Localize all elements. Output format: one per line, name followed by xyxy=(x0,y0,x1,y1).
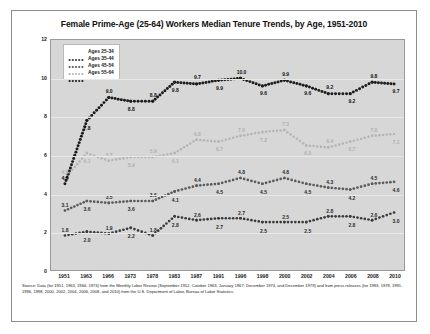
data-label: 5.9 xyxy=(150,148,157,154)
data-label: 2.7 xyxy=(216,224,223,230)
data-label: 4.3 xyxy=(326,179,333,185)
data-label: 9.0 xyxy=(106,88,113,94)
legend-swatch-icon xyxy=(68,63,84,69)
y-tick-10: 10 xyxy=(41,75,50,81)
gridline xyxy=(51,117,404,118)
legend: Ages 25-34Ages 35-44Ages 45-54Ages 55-64 xyxy=(63,44,120,80)
data-label: 2.6 xyxy=(370,212,377,218)
x-tick-1973: 1973 xyxy=(124,273,136,279)
legend-swatch-icon xyxy=(68,49,84,55)
data-label: 3.6 xyxy=(84,206,91,212)
data-label: 6.7 xyxy=(348,146,355,152)
data-label: 2.0 xyxy=(84,237,91,243)
data-label: 5.9 xyxy=(128,162,135,168)
data-label: 8.8 xyxy=(150,92,157,98)
data-label: 2.6 xyxy=(194,212,201,218)
data-label: 6.1 xyxy=(172,158,179,164)
gridline xyxy=(51,79,404,80)
data-label: 9.6 xyxy=(260,90,267,96)
legend-label: Ages 25-34 xyxy=(88,49,114,54)
data-label: 9.9 xyxy=(216,85,223,91)
data-label: 2.7 xyxy=(238,210,245,216)
x-tick-2004: 2004 xyxy=(323,273,335,279)
x-tick-2010: 2010 xyxy=(389,273,401,279)
x-tick-1996: 1996 xyxy=(235,273,247,279)
data-label: 2.8 xyxy=(326,208,333,214)
data-label: 6.4 xyxy=(326,138,333,144)
data-label: 4.8 xyxy=(238,169,245,175)
data-label: 4.4 xyxy=(194,177,201,183)
legend-label: Ages 45-54 xyxy=(88,63,114,68)
data-label: 1.8 xyxy=(150,227,157,233)
data-label: 4.6 xyxy=(393,187,400,193)
gridline xyxy=(51,195,404,196)
data-label: 7.8 xyxy=(84,125,91,131)
plot-area: Median Years With Current Employer 02468… xyxy=(50,39,405,271)
data-label: 3.1 xyxy=(62,202,69,208)
data-label: 10.0 xyxy=(237,69,247,75)
legend-swatch-icon xyxy=(68,56,84,62)
data-label: 9.9 xyxy=(282,71,289,77)
legend-label: Ages 55-64 xyxy=(88,70,114,75)
legend-item-ages-25-34[interactable]: Ages 25-34 xyxy=(68,48,114,55)
data-label: 2.2 xyxy=(128,233,135,239)
data-label: 9.8 xyxy=(370,73,377,79)
source-note: Source: Data (for 1951, 1963, 1966, 1973… xyxy=(22,283,406,295)
data-label: 4.2 xyxy=(348,195,355,201)
data-label: 3.6 xyxy=(128,206,135,212)
data-label: 4.1 xyxy=(172,197,179,203)
data-label: 4.5 xyxy=(370,175,377,181)
x-tick-2006: 2006 xyxy=(345,273,357,279)
gridline xyxy=(51,233,404,234)
x-tick-2002: 2002 xyxy=(301,273,313,279)
data-label: 2.5 xyxy=(282,214,289,220)
data-label: 9.2 xyxy=(326,84,333,90)
x-tick-1978: 1978 xyxy=(146,273,158,279)
data-label: 6.7 xyxy=(216,146,223,152)
series-ages-45-54 xyxy=(64,129,396,179)
legend-item-ages-35-44[interactable]: Ages 35-44 xyxy=(68,55,114,62)
data-label: 1.9 xyxy=(106,225,113,231)
y-tick-12: 12 xyxy=(41,36,50,42)
data-label: 2.8 xyxy=(172,222,179,228)
x-tick-2008: 2008 xyxy=(367,273,379,279)
data-label: 9.7 xyxy=(393,88,400,94)
data-label: 9.6 xyxy=(304,90,311,96)
data-label: 4.5 xyxy=(62,175,69,181)
x-tick-1951: 1951 xyxy=(58,273,70,279)
data-label: 4.8 xyxy=(282,169,289,175)
plot-canvas: 1.82.01.92.21.82.82.62.72.72.52.52.52.82… xyxy=(50,39,405,271)
x-tick-1966: 1966 xyxy=(102,273,114,279)
x-tick-1987: 1987 xyxy=(191,273,203,279)
data-label: 6.1 xyxy=(84,158,91,164)
data-label: 3.0 xyxy=(393,218,400,224)
series-ages-55-64 xyxy=(63,77,395,185)
data-label: 7.3 xyxy=(282,121,289,127)
x-tick-1991: 1991 xyxy=(213,273,225,279)
data-label: 6.8 xyxy=(194,131,201,137)
legend-item-ages-45-54[interactable]: Ages 45-54 xyxy=(68,62,114,69)
gridline xyxy=(51,156,404,157)
data-label: 7.0 xyxy=(370,127,377,133)
data-label: 9.2 xyxy=(348,98,355,104)
x-tick-1963: 1963 xyxy=(80,273,92,279)
legend-item-ages-55-64[interactable]: Ages 55-64 xyxy=(68,69,114,76)
data-label: 7.1 xyxy=(393,139,400,145)
x-tick-2000: 2000 xyxy=(279,273,291,279)
legend-swatch-icon xyxy=(68,70,84,76)
data-label: 2.8 xyxy=(348,222,355,228)
data-label: 1.8 xyxy=(62,227,69,233)
data-label: 7.0 xyxy=(238,127,245,133)
data-label: 8.8 xyxy=(128,106,135,112)
data-label: 7.2 xyxy=(260,137,267,143)
legend-label: Ages 35-44 xyxy=(88,56,114,61)
x-tick-1983: 1983 xyxy=(169,273,181,279)
figure-frame: Female Prime-Age (25-64) Workers Median … xyxy=(11,10,417,322)
chart-title: Female Prime-Age (25-64) Workers Median … xyxy=(12,19,416,29)
x-tick-1998: 1998 xyxy=(257,273,269,279)
data-label: 9.8 xyxy=(172,87,179,93)
